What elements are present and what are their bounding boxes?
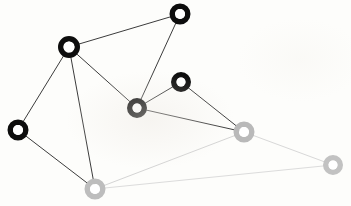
graph-node[interactable] [130, 101, 145, 116]
graph-node-hole [133, 104, 142, 113]
graph-node[interactable] [10, 122, 26, 138]
graph-svg-canvas [0, 0, 351, 206]
graph-node-hole [64, 42, 75, 53]
network-graph-figure [0, 0, 351, 206]
graph-node-hole [13, 125, 23, 135]
graph-node[interactable] [236, 124, 252, 140]
graph-node[interactable] [326, 158, 341, 173]
graph-node-hole [329, 161, 338, 170]
graph-node-hole [90, 184, 100, 194]
graph-node[interactable] [174, 75, 189, 90]
graph-node[interactable] [172, 6, 188, 22]
graph-node-hole [177, 78, 186, 87]
graph-node[interactable] [61, 39, 78, 56]
graph-node-hole [175, 9, 185, 19]
figure-background [0, 0, 351, 206]
graph-node[interactable] [87, 181, 103, 197]
graph-node-hole [239, 127, 249, 137]
